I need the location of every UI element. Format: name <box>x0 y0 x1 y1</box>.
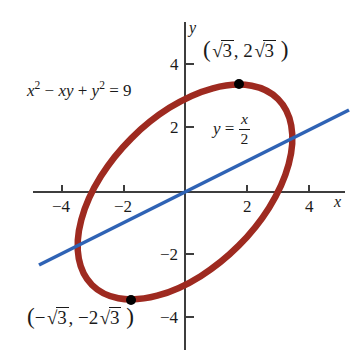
upper-radicand-1: 3 <box>221 40 234 60</box>
upper-sqrt-2: √3 <box>253 40 276 60</box>
lower-sqrt-1: √3 <box>45 307 68 327</box>
line-eq-equals: = <box>225 119 235 138</box>
lower-point-label: (−√3, −2√3 ) <box>27 305 134 328</box>
line-eq-y: y <box>213 119 221 138</box>
x-tick-label-2: 2 <box>243 198 252 215</box>
lower-minus-two: −2 <box>78 307 98 328</box>
upper-point-label: (√3, 2√3 ) <box>203 38 288 61</box>
eq-equals-nine: = 9 <box>109 81 131 100</box>
x-tick-label-neg2: −2 <box>114 198 132 215</box>
lower-comma: , <box>69 307 74 328</box>
eq-xy-term: xy <box>58 81 73 100</box>
lower-minus-1: − <box>35 307 46 328</box>
eq-y-exponent: 2 <box>99 79 105 92</box>
x-tick-label-4: 4 <box>305 198 314 215</box>
ellipse-equation-label: x2 − xy + y2 = 9 <box>27 80 132 99</box>
eq-x-exponent: 2 <box>35 79 41 92</box>
upper-comma: , <box>234 40 239 61</box>
eq-x-base: x <box>27 81 35 100</box>
eq-minus-sign: − <box>45 81 55 100</box>
x-axis-label: x <box>334 194 341 210</box>
lower-open-paren: ( <box>27 303 35 329</box>
line-eq-numerator: x <box>239 111 251 129</box>
upper-coefficient: 2 <box>243 40 253 61</box>
line-equation-label: y = x 2 <box>213 112 250 148</box>
y-axis-label: y <box>189 20 196 36</box>
upper-sqrt-1: √3 <box>211 40 234 60</box>
upper-radicand-2: 3 <box>263 40 276 60</box>
lower-sqrt-2: √3 <box>98 307 121 327</box>
math-figure: −4 −2 2 4 4 2 −2 −4 x y x2 − xy + y2 = 9… <box>0 0 364 361</box>
y-tick-label-4: 4 <box>170 56 179 73</box>
line-eq-denominator: 2 <box>239 130 251 147</box>
eq-plus-sign: + <box>78 81 88 100</box>
y-tick-label-neg4: −4 <box>160 309 178 326</box>
lower-radicand-2: 3 <box>109 307 122 327</box>
upper-point-marker <box>234 79 244 89</box>
line-eq-fraction: x 2 <box>239 111 251 147</box>
lower-close-paren: ) <box>126 303 134 329</box>
upper-open-paren: ( <box>203 36 211 62</box>
x-tick-label-neg4: −4 <box>52 198 70 215</box>
lower-radicand-1: 3 <box>56 307 69 327</box>
upper-close-paren: ) <box>281 36 289 62</box>
y-tick-label-2: 2 <box>170 119 179 136</box>
y-tick-label-neg2: −2 <box>160 246 178 263</box>
line-curve <box>39 110 349 265</box>
